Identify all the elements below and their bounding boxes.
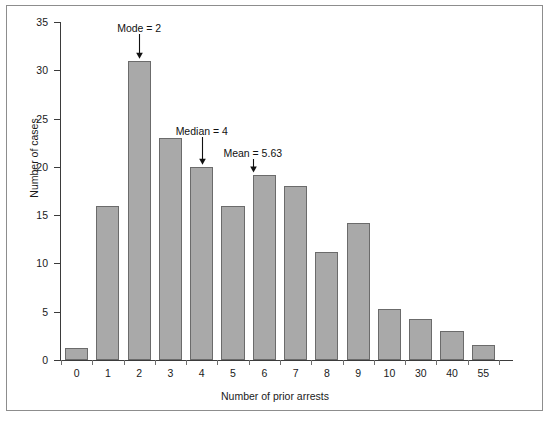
x-tick-mark — [405, 360, 406, 365]
y-tick-mark — [54, 215, 60, 216]
x-tick-mark — [468, 360, 469, 365]
bar — [253, 175, 276, 360]
y-tick-label: 25 — [0, 114, 48, 125]
x-axis-label: Number of prior arrests — [0, 390, 550, 402]
annotation-arrow-icon — [249, 159, 258, 173]
y-tick-label: 0 — [0, 355, 48, 366]
bar — [284, 186, 307, 360]
bar — [315, 252, 338, 360]
x-tick-label: 55 — [463, 368, 503, 379]
x-tick-mark — [61, 360, 62, 365]
annotation-label: Mode = 2 — [79, 23, 199, 34]
x-axis-line — [60, 360, 513, 361]
y-tick-label: 35 — [0, 17, 48, 28]
annotation-arrow-icon — [135, 34, 144, 59]
bar — [472, 345, 495, 360]
y-tick-mark — [54, 360, 60, 361]
x-tick-mark — [343, 360, 344, 365]
bar — [221, 206, 244, 361]
bar — [440, 331, 463, 360]
bar — [409, 319, 432, 360]
y-tick-label: 20 — [0, 162, 48, 173]
y-tick-mark — [54, 167, 60, 168]
x-tick-mark — [124, 360, 125, 365]
x-tick-mark — [217, 360, 218, 365]
y-tick-mark — [54, 70, 60, 71]
bar — [96, 206, 119, 361]
bar — [128, 61, 151, 360]
x-tick-mark — [280, 360, 281, 365]
x-tick-mark — [374, 360, 375, 365]
bar — [347, 223, 370, 360]
bar — [65, 348, 88, 360]
x-tick-mark — [155, 360, 156, 365]
figure: Number of cases 05101520253035 012345678… — [0, 0, 550, 421]
y-tick-label: 15 — [0, 210, 48, 221]
y-tick-label: 5 — [0, 307, 48, 318]
bar — [159, 138, 182, 360]
x-tick-mark — [499, 360, 500, 365]
x-tick-mark — [92, 360, 93, 365]
x-tick-mark — [436, 360, 437, 365]
bar — [378, 309, 401, 360]
y-tick-mark — [54, 263, 60, 264]
bar — [190, 167, 213, 360]
y-tick-mark — [54, 119, 60, 120]
x-tick-mark — [249, 360, 250, 365]
x-tick-mark — [186, 360, 187, 365]
bar-series — [61, 22, 513, 360]
y-tick-label: 30 — [0, 65, 48, 76]
y-tick-mark — [54, 312, 60, 313]
y-tick-mark — [54, 22, 60, 23]
y-tick-label: 10 — [0, 258, 48, 269]
x-tick-mark — [311, 360, 312, 365]
annotation-label: Median = 4 — [142, 126, 262, 137]
annotation-label: Mean = 5.63 — [193, 148, 313, 159]
